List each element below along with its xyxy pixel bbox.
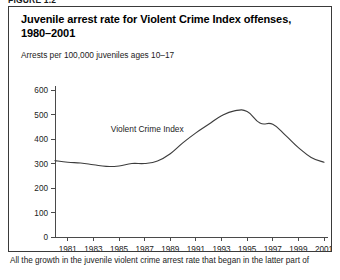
series-inline-label: Violent Crime Index (111, 124, 185, 134)
x-tick-label: 1987 (136, 245, 155, 251)
y-tick-label: 300 (34, 160, 48, 169)
x-tick-label: 1991 (187, 245, 206, 251)
figure-caption: All the growth in the juvenile violent c… (10, 256, 332, 266)
chart-figure-box: Juvenile arrest rate for Violent Crime I… (8, 6, 332, 252)
x-tick-label: 1983 (84, 245, 103, 251)
data-series-group (55, 110, 324, 167)
figure-root: FIGURE 1.2 Juvenile arrest rate for Viol… (0, 0, 340, 280)
x-axis: 1981198319851987198919911993199519971999… (55, 237, 331, 251)
x-tick-label: 1995 (238, 245, 257, 251)
figure-number-label: FIGURE 1.2 (8, 0, 56, 5)
series-line-violent-crime-index (55, 110, 324, 167)
y-tick-label: 100 (34, 209, 48, 218)
y-tick-label: 600 (34, 86, 48, 95)
line-chart-svg: 0100200300400500600 19811983198519871989… (9, 63, 331, 251)
y-tick-label: 200 (34, 184, 48, 193)
y-tick-label: 400 (34, 135, 48, 144)
x-tick-label: 1993 (212, 245, 231, 251)
plot-area: 0100200300400500600 19811983198519871989… (9, 63, 331, 251)
chart-title: Juvenile arrest rate for Violent Crime I… (21, 13, 317, 40)
x-tick-label: 1997 (264, 245, 283, 251)
x-tick-label: 1989 (161, 245, 180, 251)
x-tick-label: 1985 (110, 245, 129, 251)
series-annotation-group: Violent Crime Index (111, 124, 185, 134)
x-tick-label: 2001 (315, 245, 331, 251)
y-axis: 0100200300400500600 (34, 86, 55, 242)
y-tick-label: 500 (34, 111, 48, 120)
chart-subtitle: Arrests per 100,000 juveniles ages 10–17 (21, 50, 317, 60)
x-tick-label: 1981 (59, 245, 78, 251)
x-tick-label: 1999 (289, 245, 308, 251)
y-tick-label: 0 (43, 233, 48, 242)
